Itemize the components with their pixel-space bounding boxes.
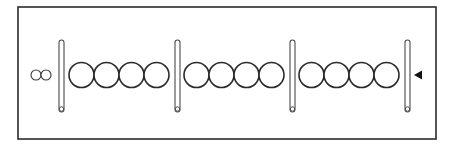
circle xyxy=(259,63,284,88)
circle xyxy=(324,63,349,88)
circle xyxy=(209,63,234,88)
circle xyxy=(184,63,209,88)
circle-group-1 xyxy=(69,63,169,88)
rod-2 xyxy=(175,40,180,112)
rod-end-cap xyxy=(175,107,179,111)
rod-shaft xyxy=(175,40,180,112)
small-circle xyxy=(31,70,41,80)
rod-end-cap xyxy=(405,107,409,111)
rod-shaft xyxy=(290,40,295,112)
circle xyxy=(374,63,399,88)
rod-3 xyxy=(290,40,295,112)
rod-end-cap xyxy=(290,107,294,111)
circle-group-2 xyxy=(184,63,284,88)
circle xyxy=(299,63,324,88)
rod-4 xyxy=(405,40,410,112)
circle xyxy=(144,63,169,88)
rod-shaft xyxy=(405,40,410,112)
rod-shaft xyxy=(59,40,64,112)
circle xyxy=(69,63,94,88)
circle xyxy=(349,63,374,88)
small-circle xyxy=(41,70,51,80)
circle xyxy=(94,63,119,88)
rod-end-cap xyxy=(59,107,63,111)
circle-group-3 xyxy=(299,63,399,88)
small-circles xyxy=(31,70,51,80)
circle xyxy=(119,63,144,88)
circle-groups xyxy=(69,63,399,88)
abacus-diagram xyxy=(0,0,458,146)
pointer-arrow-left-icon xyxy=(414,71,422,80)
circle xyxy=(234,63,259,88)
rod-1 xyxy=(59,40,64,112)
